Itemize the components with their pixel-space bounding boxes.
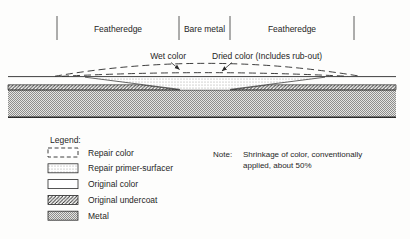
diagram-canvas: Featheredge Bare metal Featheredge Wet c… — [0, 0, 410, 239]
legend-swatch-metal — [48, 211, 78, 220]
ruler-label-featheredge-left: Featheredge — [57, 24, 179, 34]
legend-swatch-repair-primer-surfacer — [48, 164, 78, 173]
legend-swatch-original-color — [48, 180, 78, 189]
dried-color-contour — [62, 73, 348, 77]
legend-label-repair-primer-surfacer: Repair primer-surfacer — [88, 163, 173, 173]
legend-swatch-repair-color — [48, 148, 78, 157]
legend-title: Legend: — [50, 135, 81, 145]
ruler-label-featheredge-right: Featheredge — [230, 24, 354, 34]
cross-section-graphic — [0, 0, 410, 239]
note-text-line2: applied, about 50% — [243, 161, 312, 171]
legend-swatch-original-undercoat — [48, 195, 78, 204]
note-label: Note: — [213, 150, 232, 160]
legend-swatches — [48, 148, 78, 220]
metal-layer — [8, 90, 396, 117]
dried-color-label: Dried color (Includes rub-out) — [212, 51, 322, 61]
legend-label-metal: Metal — [88, 211, 109, 221]
ruler-label-bare-metal: Bare metal — [177, 24, 232, 34]
legend-label-original-color: Original color — [88, 179, 138, 189]
legend-label-repair-color: Repair color — [88, 148, 134, 158]
wet-color-label: Wet color — [126, 51, 186, 61]
legend-label-original-undercoat: Original undercoat — [88, 195, 157, 205]
note-text-line1: Shrinkage of color, conventionally — [243, 150, 362, 160]
